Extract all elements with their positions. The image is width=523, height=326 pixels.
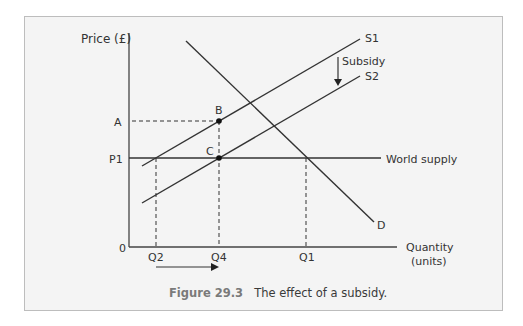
- point-label-b: B: [215, 104, 223, 117]
- x-axis-label-line2: (units): [411, 255, 447, 268]
- demand-curve-d: [186, 41, 374, 222]
- curve-label-s1: S1: [365, 32, 379, 45]
- quantity-label-q1: Q1: [299, 251, 315, 264]
- price-label-a: A: [114, 116, 122, 129]
- supply-curve-s1: [142, 39, 360, 166]
- y-axis-label: Price (£): [81, 32, 131, 46]
- point-b: [216, 118, 222, 124]
- quantity-label-q2: Q2: [148, 251, 164, 264]
- subsidy-label: Subsidy: [342, 55, 386, 68]
- subsidy-arrow-icon: [334, 79, 342, 86]
- supply-curve-s2: [142, 76, 360, 203]
- figure-caption-text: The effect of a subsidy.: [253, 286, 387, 300]
- figure-caption: Figure 29.3 The effect of a subsidy.: [169, 282, 387, 301]
- curve-label-s2: S2: [365, 70, 379, 83]
- price-label-p1: P1: [109, 153, 123, 166]
- x-axis-label-line1: Quantity: [406, 241, 454, 254]
- world-supply-label: World supply: [386, 153, 458, 166]
- subsidy-diagram: Price (£) 0 A P1 B C S1 S2 D Subsidy Wor…: [0, 0, 523, 326]
- origin-label: 0: [119, 242, 126, 255]
- figure-number: Figure 29.3: [169, 286, 243, 300]
- quantity-label-q4: Q4: [211, 251, 227, 264]
- point-c: [216, 155, 222, 161]
- point-label-c: C: [206, 145, 214, 158]
- curve-label-d: D: [377, 219, 385, 232]
- quantity-arrow-icon: [211, 263, 219, 271]
